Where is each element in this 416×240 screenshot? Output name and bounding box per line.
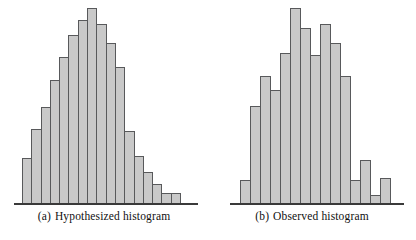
caption-tag-b: (b): [255, 210, 269, 222]
x-axis-baseline-b: [230, 203, 404, 205]
caption-b: (b)Observed histogram: [208, 210, 416, 222]
bar-series-b: [240, 8, 390, 203]
histogram-bar: [380, 178, 391, 203]
histogram-bar: [171, 193, 181, 203]
plot-area-b: [208, 8, 416, 203]
caption-tag-a: (a): [38, 210, 51, 222]
panel-hypothesized-histogram: (a)Hypothesized histogram: [0, 0, 208, 240]
caption-text-b: Observed histogram: [273, 210, 369, 222]
caption-text-a: Hypothesized histogram: [55, 210, 170, 222]
panel-observed-histogram: (b)Observed histogram: [208, 0, 416, 240]
x-axis-baseline-a: [14, 203, 198, 205]
histogram-figure: (a)Hypothesized histogram (b)Observed hi…: [0, 0, 416, 240]
plot-area-a: [0, 8, 208, 203]
caption-a: (a)Hypothesized histogram: [0, 210, 208, 222]
bar-series-a: [22, 8, 180, 203]
